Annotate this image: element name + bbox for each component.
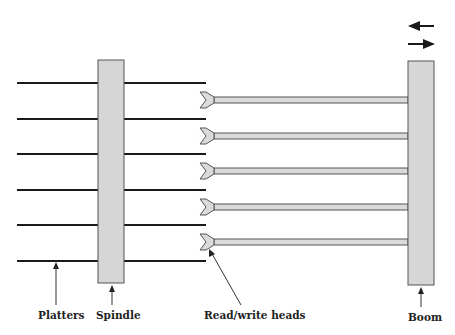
label-boom: Boom [408, 311, 442, 323]
heads-pointer [209, 249, 241, 305]
head-3 [200, 163, 408, 179]
spindle [98, 60, 124, 283]
label-heads: Read/write heads [204, 309, 306, 321]
motion-arrows [408, 21, 435, 49]
read-write-heads [200, 92, 408, 250]
spindle-pointer [109, 285, 115, 305]
label-platters: Platters [38, 309, 85, 321]
head-1 [200, 92, 408, 108]
head-4 [200, 199, 408, 215]
arrow-left-icon [408, 21, 434, 31]
head-2 [200, 128, 408, 144]
head-5 [200, 234, 408, 250]
arrow-right-icon [408, 39, 435, 49]
label-spindle: Spindle [96, 309, 141, 321]
boom-pointer [418, 287, 424, 307]
platters-pointer [53, 262, 59, 305]
disk-diagram: Platters Spindle Read/write heads Boom [0, 0, 455, 335]
boom [408, 61, 434, 285]
